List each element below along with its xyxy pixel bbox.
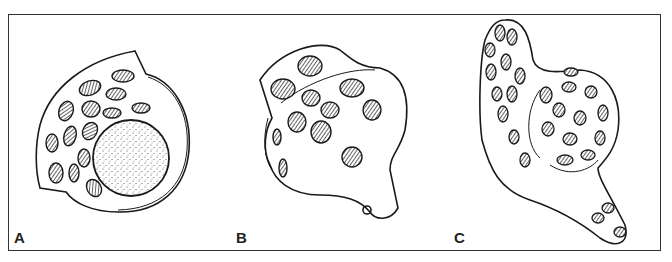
panel-label-b: B — [236, 229, 247, 246]
panel-label-a: A — [14, 229, 25, 246]
panel-b-drawing — [260, 45, 407, 218]
panel-c-drawing — [480, 20, 626, 244]
panel-a-drawing — [36, 51, 189, 212]
illustration — [0, 0, 672, 262]
panel-label-c: C — [454, 229, 465, 246]
